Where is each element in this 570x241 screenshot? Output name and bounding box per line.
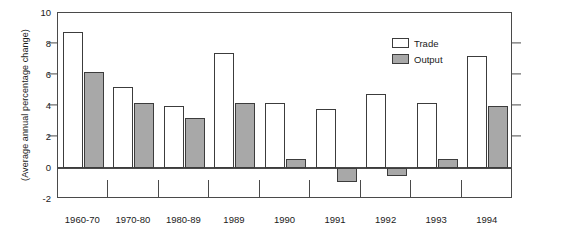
bar-output-1980-89 (185, 118, 205, 168)
bar-output-1993 (438, 159, 458, 168)
x-tick-label-1992: 1992 (375, 214, 396, 225)
bar-trade-1970-80 (113, 87, 133, 168)
bar-output-1989 (235, 103, 255, 168)
y-tick-label: 4 (21, 100, 51, 111)
bar-trade-1980-89 (164, 106, 184, 168)
legend-swatch-trade-icon (392, 38, 409, 48)
y-tick-label: -2 (21, 193, 51, 204)
x-tick-label-1989: 1989 (223, 214, 244, 225)
x-tick-label-1991: 1991 (324, 214, 345, 225)
legend-swatch-output-icon (392, 54, 409, 64)
x-tick-label-1960-70: 1960-70 (65, 214, 100, 225)
x-axis-separator (107, 180, 108, 198)
y-tick-mark-right (512, 73, 521, 74)
y-tick-mark (48, 104, 57, 105)
x-axis-separator (461, 180, 462, 198)
plot-area (57, 12, 512, 198)
bar-trade-1991 (316, 109, 336, 168)
bar-output-1994 (488, 106, 508, 168)
chart-figure: (Average annual percentage change) 10864… (0, 0, 570, 241)
y-tick-label: 2 (21, 131, 51, 142)
x-axis-separator (158, 180, 159, 198)
legend-label-output: Output (414, 54, 443, 65)
y-tick-mark-right (512, 135, 521, 136)
y-tick-mark (48, 42, 57, 43)
x-axis-separator (309, 180, 310, 198)
x-tick-label-1994: 1994 (476, 214, 497, 225)
bar-trade-1989 (214, 53, 234, 168)
y-tick-mark (48, 73, 57, 74)
x-axis-separator (410, 180, 411, 198)
bar-trade-1994 (467, 56, 487, 168)
y-tick-label: 8 (21, 38, 51, 49)
bar-trade-1992 (366, 94, 386, 168)
y-tick-mark-right (512, 104, 521, 105)
bar-trade-1993 (417, 103, 437, 168)
x-axis-separator (259, 180, 260, 198)
y-tick-label: 0 (21, 162, 51, 173)
bar-output-1991 (337, 168, 357, 182)
bar-trade-1960-70 (63, 32, 83, 168)
x-tick-label-1980-89: 1980-89 (166, 214, 201, 225)
y-tick-label: 6 (21, 69, 51, 80)
legend-item-output: Output (392, 52, 443, 66)
legend-item-trade: Trade (392, 36, 443, 50)
y-tick-mark-right (512, 42, 521, 43)
x-axis-separator (360, 180, 361, 198)
y-tick-label: 10 (21, 7, 51, 18)
bar-output-1990 (286, 159, 306, 168)
x-tick-label-1970-80: 1970-80 (115, 214, 150, 225)
bar-trade-1990 (265, 103, 285, 168)
y-tick-mark (48, 135, 57, 136)
x-axis-separator (208, 180, 209, 198)
legend-label-trade: Trade (414, 38, 438, 49)
chart-legend: Trade Output (392, 36, 443, 68)
bar-output-1992 (387, 168, 407, 176)
bar-output-1970-80 (134, 103, 154, 168)
x-tick-label-1993: 1993 (426, 214, 447, 225)
bar-output-1960-70 (84, 72, 104, 168)
x-tick-label-1990: 1990 (274, 214, 295, 225)
